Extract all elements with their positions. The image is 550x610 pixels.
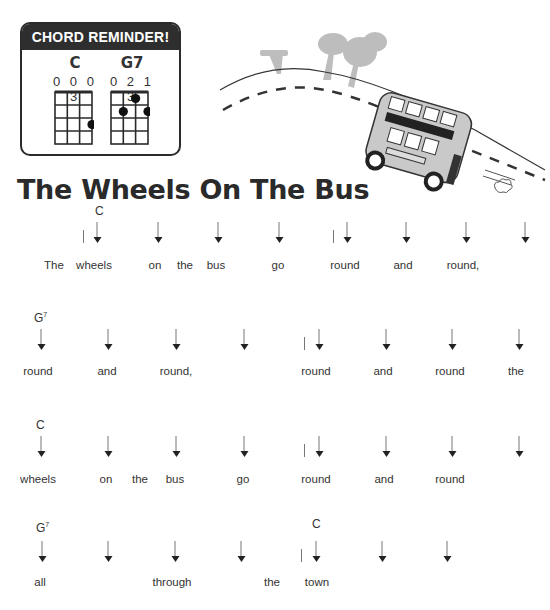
down-strum-arrow-icon bbox=[382, 436, 391, 458]
lyric-word: and bbox=[374, 473, 393, 485]
down-strum-arrow-icon bbox=[104, 436, 113, 458]
lyric-word: on bbox=[149, 259, 162, 271]
down-strum-arrow-icon bbox=[172, 329, 181, 351]
bar-line bbox=[333, 230, 334, 243]
chord-g7-diagram bbox=[110, 90, 150, 146]
lyric-word: town bbox=[305, 576, 329, 588]
down-strum-arrow-icon bbox=[104, 329, 113, 351]
down-strum-arrow-icon bbox=[515, 436, 524, 458]
down-strum-arrow-icon bbox=[462, 222, 471, 244]
down-strum-arrow-icon bbox=[378, 541, 387, 563]
lyric-word: and bbox=[373, 365, 392, 377]
bar-line bbox=[301, 549, 302, 562]
lyric-word: round bbox=[330, 259, 359, 271]
down-strum-arrow-icon bbox=[402, 222, 411, 244]
down-strum-arrow-icon bbox=[448, 329, 457, 351]
down-strum-arrow-icon bbox=[275, 222, 284, 244]
lyric-word: and bbox=[393, 259, 412, 271]
down-strum-arrow-icon bbox=[154, 222, 163, 244]
chord-c-name: C bbox=[55, 54, 95, 72]
lyric-word: and bbox=[97, 365, 116, 377]
lyric-word: wheels bbox=[20, 473, 56, 485]
lyric-word: bus bbox=[166, 473, 185, 485]
chord-label: C bbox=[312, 517, 321, 531]
down-strum-arrow-icon bbox=[312, 541, 321, 563]
down-strum-arrow-icon bbox=[38, 541, 47, 563]
bar-line bbox=[83, 230, 84, 243]
bar-line bbox=[304, 337, 305, 350]
chord-reminder-title: CHORD REMINDER! bbox=[22, 24, 179, 50]
down-strum-arrow-icon bbox=[240, 329, 249, 351]
down-strum-arrow-icon bbox=[448, 436, 457, 458]
lyric-word: the bbox=[508, 365, 524, 377]
lyric-word: all bbox=[34, 576, 46, 588]
down-strum-arrow-icon bbox=[521, 222, 530, 244]
lyric-word: round bbox=[301, 365, 330, 377]
chord-label: C bbox=[36, 418, 45, 432]
down-strum-arrow-icon bbox=[37, 329, 46, 351]
lyric-word: round bbox=[435, 473, 464, 485]
lyric-word: round bbox=[301, 473, 330, 485]
down-strum-arrow-icon bbox=[515, 329, 524, 351]
lyric-word: through bbox=[152, 576, 191, 588]
down-strum-arrow-icon bbox=[315, 436, 324, 458]
lyric-word: round, bbox=[447, 259, 480, 271]
down-strum-arrow-icon bbox=[172, 436, 181, 458]
chord-g7-name: G7 bbox=[112, 54, 152, 72]
tree-icon bbox=[260, 32, 387, 88]
lyric-word: on bbox=[100, 473, 113, 485]
down-strum-arrow-icon bbox=[343, 222, 352, 244]
lyric-word: The bbox=[44, 259, 64, 271]
lyric-word: round bbox=[435, 365, 464, 377]
down-strum-arrow-icon bbox=[240, 436, 249, 458]
chord-label: G7 bbox=[36, 521, 49, 535]
down-strum-arrow-icon bbox=[214, 222, 223, 244]
chord-c-diagram bbox=[54, 90, 94, 146]
chord-label: C bbox=[95, 204, 104, 218]
bus-illustration bbox=[215, 30, 550, 195]
down-strum-arrow-icon bbox=[315, 329, 324, 351]
lyric-word: go bbox=[237, 473, 250, 485]
lyric-word: the bbox=[177, 259, 193, 271]
down-strum-arrow-icon bbox=[443, 541, 452, 563]
lyric-word: wheels bbox=[76, 259, 112, 271]
lyric-word: the bbox=[264, 576, 280, 588]
lyric-word: go bbox=[272, 259, 285, 271]
down-strum-arrow-icon bbox=[237, 541, 246, 563]
lyric-word: round, bbox=[160, 365, 193, 377]
chord-label: G7 bbox=[34, 311, 47, 325]
down-strum-arrow-icon bbox=[104, 541, 113, 563]
lyric-word: the bbox=[132, 473, 148, 485]
song-title: The Wheels On The Bus bbox=[17, 174, 369, 205]
lyric-word: bus bbox=[207, 259, 226, 271]
down-strum-arrow-icon bbox=[171, 541, 180, 563]
down-strum-arrow-icon bbox=[37, 436, 46, 458]
lyric-word: round bbox=[23, 365, 52, 377]
bar-line bbox=[304, 444, 305, 457]
down-strum-arrow-icon bbox=[382, 329, 391, 351]
chord-reminder-box: CHORD REMINDER! C 0 0 0 3 G7 0 2 1 3 bbox=[20, 22, 181, 156]
down-strum-arrow-icon bbox=[93, 222, 102, 244]
